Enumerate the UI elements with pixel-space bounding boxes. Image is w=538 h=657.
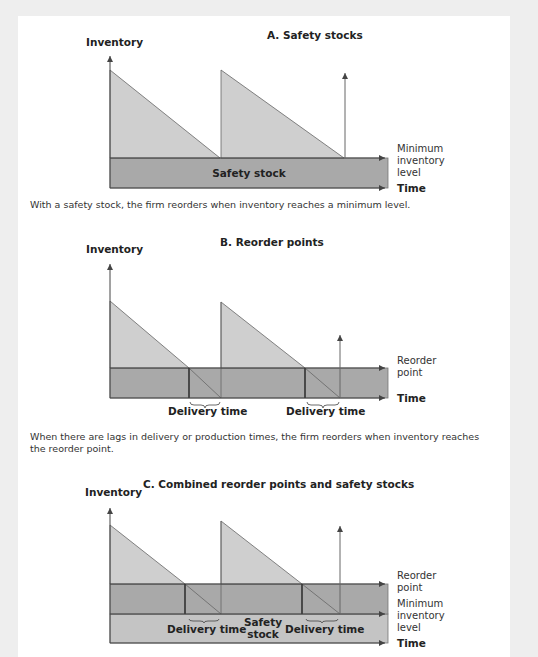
min-level-label: inventory [397, 155, 445, 166]
chart-b-title: B. Reorder points [220, 236, 324, 248]
reorder-label: Reorder [397, 355, 437, 366]
delivery-time-label: Delivery time [286, 405, 365, 417]
inventory-triangle [110, 301, 189, 368]
time-label: Time [397, 392, 426, 404]
min-level-label: level [397, 622, 421, 633]
inventory-triangle [110, 70, 220, 158]
chart-a-title: A. Safety stocks [267, 29, 363, 41]
chart-c-title: C. Combined reorder points and safety st… [143, 478, 414, 490]
chart-c: C. Combined reorder points and safety st… [85, 478, 445, 649]
delivery-time-label: Delivery time [167, 623, 246, 635]
safety-stock-label: stock [247, 628, 280, 640]
inventory-diagrams: A. Safety stocks Inventory Safety stock … [0, 0, 538, 657]
reorder-label: Reorder [397, 570, 437, 581]
inventory-triangle [110, 525, 185, 584]
reorder-label: point [397, 367, 423, 378]
caption-b: When there are lags in delivery or produ… [30, 431, 480, 455]
chart-b: B. Reorder points Inventory Delivery tim… [86, 236, 437, 417]
chart-b-ylabel: Inventory [86, 243, 143, 255]
chart-a: A. Safety stocks Inventory Safety stock … [86, 29, 445, 194]
chart-c-ylabel: Inventory [85, 486, 142, 498]
delivery-time-label: Delivery time [168, 405, 247, 417]
safety-stock-label: Safety [244, 616, 282, 628]
min-level-label: Minimum [397, 143, 443, 154]
reorder-band [110, 368, 388, 398]
inventory-triangle [221, 70, 344, 158]
min-level-label: inventory [397, 610, 445, 621]
inventory-triangle [221, 521, 302, 584]
caption-a: With a safety stock, the firm reorders w… [30, 199, 480, 211]
delivery-time-label: Delivery time [285, 623, 364, 635]
chart-a-ylabel: Inventory [86, 36, 143, 48]
min-level-label: level [397, 167, 421, 178]
min-level-label: Minimum [397, 598, 443, 609]
safety-stock-label: Safety stock [212, 167, 287, 179]
time-label: Time [397, 182, 426, 194]
time-label: Time [397, 637, 426, 649]
reorder-band [110, 584, 388, 614]
inventory-triangle [221, 302, 305, 368]
reorder-label: point [397, 582, 423, 593]
